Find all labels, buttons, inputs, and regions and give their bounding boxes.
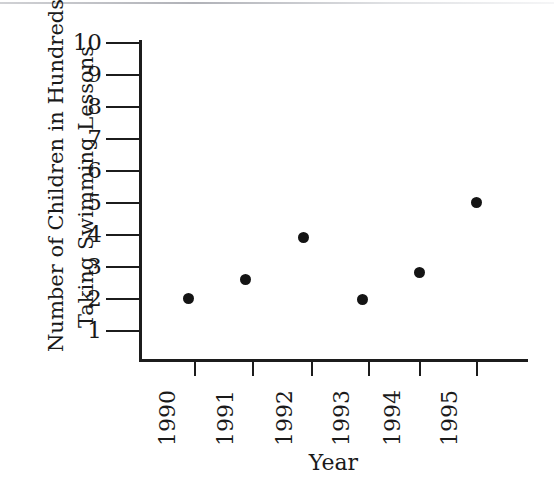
x-tick-label-1991: 1991 <box>240 380 264 456</box>
x-tick-1990 <box>194 361 196 376</box>
x-tick-label-1991-text: 1991 <box>214 390 238 446</box>
x-tick-label-1992: 1992 <box>299 380 323 456</box>
data-point-1992 <box>298 232 309 243</box>
x-tick-label-1993-text: 1993 <box>330 390 354 446</box>
x-tick-label-1994-text: 1994 <box>381 390 405 446</box>
y-axis-title-line-1: Number of Children in Hundreds <box>41 22 71 352</box>
y-tick-2 <box>106 298 140 300</box>
data-point-1991 <box>240 274 251 285</box>
y-axis-title-line-2: Taking Swimming Lessons <box>71 22 101 352</box>
x-axis-line <box>139 359 528 362</box>
x-tick-label-1994: 1994 <box>407 380 431 456</box>
x-tick-label-1990-text: 1990 <box>156 390 180 446</box>
x-tick-1991 <box>252 361 254 376</box>
x-tick-1994 <box>419 361 421 376</box>
data-point-1990 <box>183 293 194 304</box>
x-tick-label-1995: 1995 <box>464 380 488 456</box>
y-axis-title: Number of Children in Hundreds Taking Sw… <box>41 22 105 352</box>
y-tick-8 <box>106 106 140 108</box>
y-tick-4 <box>106 234 140 236</box>
y-tick-1 <box>106 330 140 332</box>
y-tick-3 <box>106 266 140 268</box>
x-tick-1992 <box>311 361 313 376</box>
x-axis-title: Year <box>139 450 528 476</box>
y-tick-10 <box>106 42 140 44</box>
data-point-1994 <box>414 267 425 278</box>
y-tick-5 <box>106 202 140 204</box>
x-tick-label-1995-text: 1995 <box>438 390 462 446</box>
y-tick-7 <box>106 138 140 140</box>
y-tick-6 <box>106 170 140 172</box>
x-tick-label-1990: 1990 <box>182 380 206 456</box>
data-point-1993 <box>357 294 368 305</box>
scatter-chart-figure: 1 2 3 4 5 6 7 8 9 <box>0 0 554 483</box>
data-point-1995 <box>471 197 482 208</box>
y-tick-9 <box>106 74 140 76</box>
y-axis-line <box>139 40 142 362</box>
x-tick-label-1992-text: 1992 <box>273 390 297 446</box>
x-tick-1995 <box>476 361 478 376</box>
x-tick-label-1993: 1993 <box>356 380 380 456</box>
x-tick-1993 <box>368 361 370 376</box>
